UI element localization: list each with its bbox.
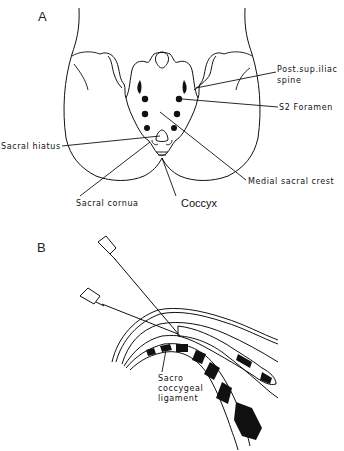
leader-sacral-hiatus (62, 136, 160, 146)
needle-shallow (80, 288, 178, 334)
label-post-sup-iliac-spine: Post.sup.iliac (277, 65, 338, 74)
label-medial-sacral-crest: Medial sacral crest (248, 177, 334, 186)
left-si-slit (137, 80, 141, 94)
right-s2-foramen (176, 96, 182, 102)
right-si-slit (183, 80, 187, 94)
right-buttock-crease (224, 52, 252, 56)
syringe-hub-icon (98, 236, 116, 254)
right-iliac-crest (198, 53, 224, 98)
leader-coccyx (162, 158, 176, 196)
vertebra (216, 382, 232, 404)
sacral-anatomy-figure: A (0, 0, 344, 451)
spinous-process (155, 52, 168, 68)
vertebra (204, 362, 220, 380)
left-s3-foramen (142, 111, 148, 117)
vertebra (192, 350, 206, 364)
label-ligament-1: Sacro (158, 374, 183, 383)
panel-b-label: B (37, 240, 46, 255)
panel-a-label: A (38, 9, 47, 24)
label-sacral-cornua: Sacral cornua (76, 199, 139, 208)
left-buttock-crease (72, 52, 100, 56)
panel-a: A (1, 8, 338, 209)
leader-sacral-cornua (80, 142, 150, 196)
right-s3-foramen (174, 111, 180, 117)
panel-b: B (37, 236, 278, 450)
sacral-hiatus-shape (156, 130, 168, 142)
leader-sacrococcygeal-ligament (162, 350, 166, 372)
label-post-sup-iliac-spine-2: spine (277, 76, 301, 85)
syringe-hub-icon (80, 288, 100, 304)
needle-shaft (114, 258, 180, 336)
vertebra (234, 402, 262, 440)
left-s4-foramen (144, 125, 150, 131)
leader-medial-sacral-crest (160, 112, 246, 180)
vertebra (176, 344, 188, 352)
left-iliac-crest (100, 53, 126, 98)
label-ligament-3: ligament (158, 394, 198, 403)
left-iliac-inner (108, 56, 122, 88)
label-s2-foramen: S2 Foramen (279, 103, 333, 112)
left-s2-foramen (142, 96, 148, 102)
label-coccyx: Coccyx (181, 197, 218, 209)
needle-steep (98, 236, 180, 336)
left-muscle-line (74, 64, 88, 90)
label-sacral-hiatus: Sacral hiatus (1, 142, 61, 151)
leader-post-sup-iliac-spine (196, 72, 276, 88)
right-s4-foramen (171, 125, 177, 131)
label-ligament-2: coccygeal (158, 384, 203, 393)
